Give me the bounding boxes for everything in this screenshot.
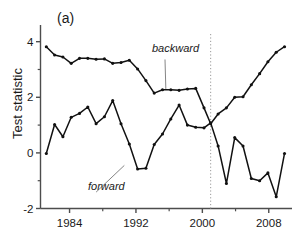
figure-panel-a: 420-21984199220002008 Test statistic (a)… [0, 0, 302, 238]
svg-text:1992: 1992 [123, 217, 149, 229]
svg-text:2: 2 [27, 91, 33, 103]
y-axis-label: Test statistic [10, 39, 25, 169]
series-label-backward: backward [152, 42, 199, 54]
svg-text:0: 0 [27, 147, 33, 159]
svg-text:2000: 2000 [190, 217, 216, 229]
test-statistic-line-chart: 420-21984199220002008 [0, 0, 302, 238]
svg-text:4: 4 [27, 36, 34, 48]
series-label-forward: forward [88, 180, 125, 192]
svg-text:2008: 2008 [256, 217, 282, 229]
svg-text:-2: -2 [23, 203, 33, 215]
panel-label: (a) [57, 10, 74, 26]
svg-text:1984: 1984 [57, 217, 83, 229]
